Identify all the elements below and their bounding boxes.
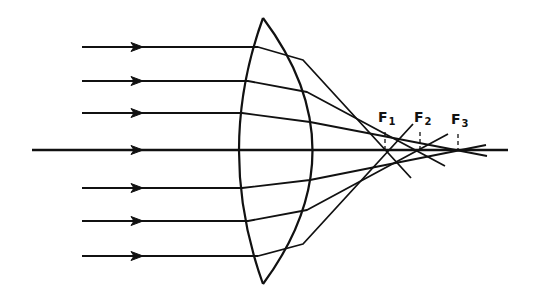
lens-diagram: F1 F2 F3 — [0, 0, 535, 299]
ray-path — [82, 124, 413, 256]
diagram-canvas — [0, 0, 535, 299]
light-rays — [82, 43, 487, 261]
ray-path — [82, 134, 448, 221]
ray-outer-top — [82, 43, 411, 179]
focal-label-f2: F2 — [414, 110, 432, 127]
focal-label-f3: F3 — [451, 112, 469, 129]
ray-inner-bottom — [82, 145, 486, 193]
focal-label-f1: F1 — [378, 110, 396, 127]
ray-path — [82, 145, 486, 188]
